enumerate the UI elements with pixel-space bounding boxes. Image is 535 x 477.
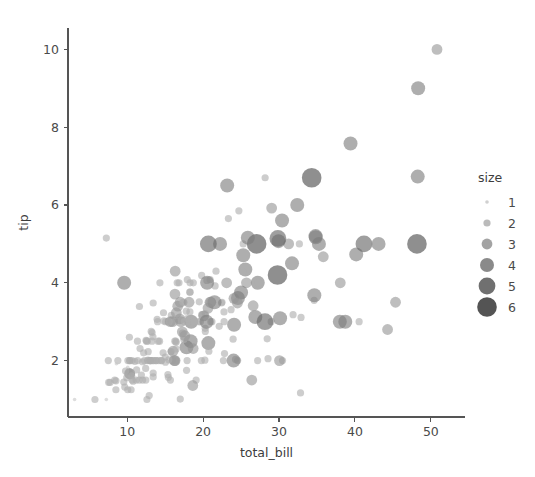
data-point — [248, 300, 259, 311]
data-point — [246, 375, 257, 386]
y-tick-label: 2 — [51, 353, 59, 368]
legend-marker — [482, 239, 493, 250]
data-point — [262, 174, 269, 181]
data-point — [216, 323, 223, 330]
data-point — [172, 345, 179, 352]
data-point — [275, 214, 289, 228]
data-point — [136, 376, 143, 383]
data-point — [225, 215, 232, 222]
data-point — [264, 335, 271, 342]
x-axis-label: total_bill — [240, 445, 293, 460]
data-point — [112, 386, 119, 393]
data-point — [136, 303, 143, 310]
data-point — [257, 313, 274, 330]
data-point — [356, 318, 363, 325]
data-point — [407, 234, 427, 254]
plot-canvas: 1020304050 246810 total_bill tip size 12… — [0, 0, 535, 477]
y-tick-label: 8 — [51, 120, 59, 135]
data-point — [91, 396, 98, 403]
data-point — [212, 268, 219, 275]
data-point — [234, 286, 248, 300]
data-point — [200, 276, 214, 290]
legend-label: 2 — [508, 216, 516, 231]
data-point — [184, 297, 195, 308]
data-point — [177, 326, 188, 337]
data-point — [149, 329, 156, 336]
data-point — [236, 248, 250, 262]
data-point — [232, 298, 243, 309]
data-point — [290, 198, 304, 212]
data-point — [356, 236, 373, 253]
x-tick-label: 50 — [423, 424, 439, 439]
y-tick-label: 10 — [43, 42, 59, 57]
data-point — [146, 357, 153, 364]
data-point — [148, 338, 155, 345]
data-point — [220, 179, 234, 193]
y-tick-label: 6 — [51, 197, 59, 212]
data-point — [205, 348, 212, 355]
data-point — [73, 398, 77, 402]
data-point — [184, 357, 191, 364]
data-point — [103, 234, 110, 241]
data-point — [154, 318, 161, 325]
data-point — [254, 357, 261, 364]
data-point — [183, 367, 190, 374]
data-point — [160, 309, 167, 316]
data-point — [372, 237, 386, 251]
x-tick-label: 30 — [271, 424, 287, 439]
data-point — [181, 318, 188, 325]
x-tick-label: 20 — [195, 424, 211, 439]
data-point — [200, 236, 217, 253]
data-point — [269, 230, 286, 247]
data-point — [170, 266, 181, 277]
data-point — [166, 318, 173, 325]
legend-label: 4 — [508, 258, 516, 273]
legend-label: 3 — [508, 237, 516, 252]
legend-label: 1 — [508, 195, 516, 210]
data-point — [150, 299, 157, 306]
data-point — [338, 315, 352, 329]
data-point — [221, 277, 232, 288]
data-point — [239, 268, 246, 275]
y-axis-label: tip — [16, 214, 31, 230]
data-point — [142, 365, 149, 372]
legend-marker — [483, 219, 490, 226]
data-point — [117, 276, 131, 290]
data-point — [221, 350, 228, 357]
data-point — [268, 265, 288, 285]
data-point — [140, 349, 147, 356]
data-point — [382, 324, 393, 335]
data-point — [318, 251, 329, 262]
data-point — [432, 44, 443, 55]
legend-title: size — [478, 170, 503, 185]
data-point — [264, 355, 271, 362]
data-point — [274, 355, 285, 366]
data-point — [196, 298, 203, 305]
legend-label: 6 — [508, 300, 516, 315]
data-point — [411, 170, 425, 184]
data-point — [266, 203, 277, 214]
data-point — [160, 349, 167, 356]
data-point — [156, 279, 163, 286]
data-point — [227, 318, 241, 332]
data-point — [411, 81, 425, 95]
figure-background — [0, 0, 535, 477]
data-point — [302, 168, 322, 188]
data-point — [122, 368, 129, 375]
data-point — [190, 318, 197, 325]
x-tick-label: 10 — [119, 424, 135, 439]
data-point — [158, 357, 165, 364]
data-point — [198, 357, 205, 364]
data-point — [235, 207, 242, 214]
scatter-plot-figure: 1020304050 246810 total_bill tip size 12… — [0, 0, 535, 477]
data-point — [187, 380, 198, 391]
y-tick-label: 4 — [51, 275, 59, 290]
data-point — [165, 356, 172, 363]
data-point — [143, 396, 150, 403]
data-point — [150, 373, 157, 380]
data-point — [188, 343, 199, 354]
data-point — [129, 378, 136, 385]
data-point — [227, 354, 241, 368]
data-point — [297, 314, 304, 321]
data-point — [200, 315, 214, 329]
